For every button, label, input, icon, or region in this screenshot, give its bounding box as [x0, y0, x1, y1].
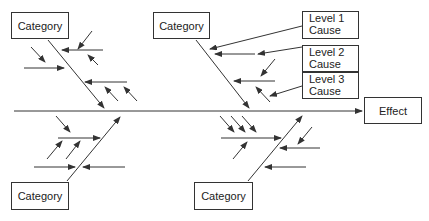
legend-level-1-cause: Level 1 Cause: [302, 11, 359, 39]
legend-line2: Cause: [309, 85, 341, 97]
effect-label: Effect: [379, 105, 407, 117]
bone-bottom-left: [67, 117, 120, 181]
legend-level-3-cause: Level 3 Cause: [302, 72, 359, 99]
legend-line1: Level 3: [309, 73, 344, 85]
category-box-top-left: Category: [11, 12, 69, 39]
category-box-top-middle: Category: [153, 12, 210, 39]
category-label: Category: [18, 20, 63, 32]
category-label: Category: [159, 20, 204, 32]
legend-level-2-cause: Level 2 Cause: [302, 45, 359, 72]
fishbone-diagram: Category Category Category Category Leve…: [0, 0, 429, 221]
legend-line1: Level 2: [309, 46, 344, 58]
legend-line1: Level 1: [309, 12, 344, 24]
effect-box: Effect: [364, 97, 422, 124]
legend-line2: Cause: [309, 58, 341, 70]
category-label: Category: [201, 190, 246, 202]
category-box-bottom-middle: Category: [194, 182, 253, 210]
legend-line2: Cause: [309, 24, 341, 36]
bone-top-middle: [196, 40, 249, 108]
category-label: Category: [18, 190, 63, 202]
category-box-bottom-left: Category: [11, 182, 69, 210]
